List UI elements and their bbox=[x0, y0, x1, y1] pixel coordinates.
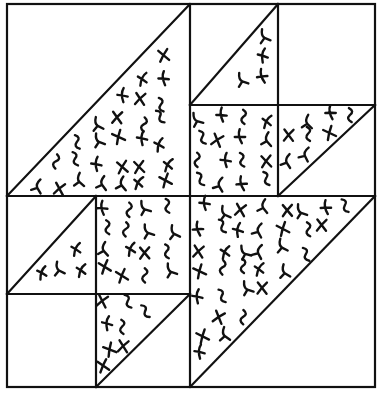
quilt-block-diagram bbox=[0, 0, 379, 397]
